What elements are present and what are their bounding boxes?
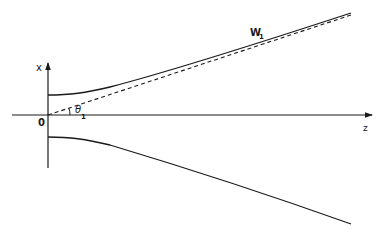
x-axis-label: x: [36, 62, 42, 73]
asymptote-line: [48, 15, 351, 115]
angle-label: θ 1: [75, 104, 86, 121]
z-axis-label: z: [363, 123, 368, 133]
beam-diagram: x z 0 W 1 θ 1: [0, 0, 380, 234]
beam-width-label: W 1: [250, 27, 264, 41]
svg-text:1: 1: [259, 33, 264, 41]
origin-label: 0: [38, 117, 45, 128]
angle-arc: [69, 108, 70, 115]
lower-beam-envelope: [48, 137, 351, 224]
svg-text:1: 1: [81, 113, 86, 121]
upper-beam-envelope: [48, 13, 351, 95]
